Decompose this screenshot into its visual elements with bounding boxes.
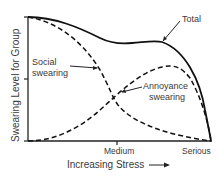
social-swearing-curve — [28, 17, 211, 141]
social-label-line2: swearing — [32, 68, 68, 78]
x-tick-label-medium: Medium — [104, 146, 134, 156]
chart: Total Social swearing Annoyance swearing… — [0, 0, 224, 178]
total-label: Total — [182, 14, 201, 24]
social-label-line1: Social — [32, 57, 57, 67]
annoyance-label-line2: swearing — [149, 92, 185, 102]
annoyance-label-line1: Annoyance — [143, 81, 188, 91]
x-tick-label-serious: Serious — [182, 146, 211, 156]
social-arrowhead-icon — [93, 66, 98, 70]
y-axis-title: Swearing Level for Group — [10, 28, 21, 142]
total-curve — [28, 17, 211, 141]
x-axis-title: Increasing Stress — [67, 159, 144, 170]
x-axis-arrowhead-icon — [164, 163, 170, 168]
social-arrow — [70, 66, 97, 68]
